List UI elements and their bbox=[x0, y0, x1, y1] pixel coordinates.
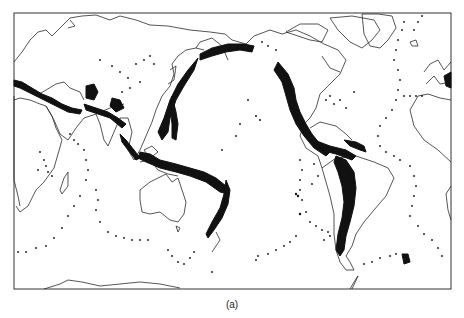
south-sandwich-cluster bbox=[402, 254, 410, 264]
world-seismicity-map bbox=[0, 0, 464, 318]
ridge-epicenters bbox=[17, 15, 443, 273]
aegean-cluster bbox=[444, 72, 451, 88]
andes-belt bbox=[334, 156, 356, 256]
mariana-belt bbox=[170, 96, 178, 140]
map-frame bbox=[14, 13, 451, 289]
sumatra-belt bbox=[120, 134, 140, 160]
cascadia-belt bbox=[274, 62, 330, 156]
central-asia-cluster bbox=[86, 84, 98, 100]
tibet-cluster bbox=[110, 98, 124, 112]
seismic-belts bbox=[14, 44, 451, 264]
indonesia-arc bbox=[138, 152, 228, 194]
figure-caption: (a) bbox=[0, 299, 464, 310]
